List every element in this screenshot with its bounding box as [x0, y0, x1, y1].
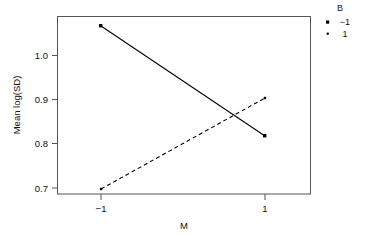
legend-title: B [337, 3, 343, 13]
data-point-b-minus1-m-minus1 [99, 24, 102, 27]
data-point-b-1-m-1 [264, 97, 266, 99]
legend-label-b-minus1: −1 [340, 17, 350, 27]
plot-frame [58, 17, 311, 195]
legend-label-b-1: 1 [342, 29, 347, 39]
plot-canvas: 1.0 0.9 0.8 0.7 −1 1 M Mean log(SD) B −1… [0, 0, 370, 235]
series-line-b-1 [101, 98, 265, 189]
y-tick-label-1.0: 1.0 [35, 50, 48, 61]
y-tick-label-0.9: 0.9 [35, 94, 48, 105]
y-tick-label-0.8: 0.8 [35, 138, 48, 149]
series-line-b-minus1 [101, 26, 265, 136]
data-point-b-1-m-minus1 [100, 188, 102, 190]
data-point-b-minus1-m-1 [263, 134, 266, 137]
legend-marker-b-1 [327, 33, 329, 35]
legend-marker-b-minus1 [326, 21, 329, 24]
y-axis-title: Mean log(SD) [11, 76, 22, 135]
x-tick-label--1: −1 [96, 203, 107, 214]
x-axis-title: M [180, 220, 188, 231]
y-tick-label-0.7: 0.7 [35, 183, 48, 194]
interaction-plot-figure: 1.0 0.9 0.8 0.7 −1 1 M Mean log(SD) B −1… [0, 0, 370, 235]
x-tick-label-1: 1 [262, 203, 267, 214]
legend: B −1 1 [326, 3, 350, 39]
